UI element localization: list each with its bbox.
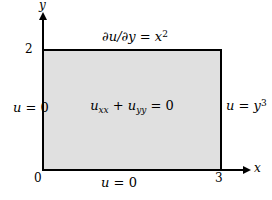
x-axis-label: x [254,162,261,175]
bottom-bc-rhs: = 0 [109,175,136,190]
boundary-condition-bottom: u = 0 [101,175,137,190]
interior-pde-equation: uxx + uyy = 0 [90,98,174,113]
pde-term2-subscript: yy [136,105,146,115]
origin-tick-0: 0 [34,172,42,185]
boundary-condition-top: ∂u/∂y = x2 [102,29,168,44]
boundary-condition-right: u = y3 [226,98,267,113]
right-bc-body: u = y [226,98,261,113]
top-bc-body: ∂u/∂y = x [102,29,162,44]
y-axis-label: y [39,0,46,12]
pde-operator: + [109,98,128,113]
right-bc-exponent: 3 [261,98,267,108]
pde-boundary-value-diagram: y x 2 0 3 ∂u/∂y = x2 uxx + uyy = 0 u = 0… [0,0,272,200]
y-axis-line [42,19,44,50]
pde-rhs: = 0 [146,98,173,113]
x-axis-tick-3: 3 [215,172,223,185]
y-axis-arrowhead-icon [39,12,47,20]
pde-term1-subscript: xx [99,105,109,115]
left-bc-rhs: = 0 [21,100,48,115]
top-bc-exponent: 2 [162,29,168,39]
x-axis-arrowhead-icon [243,166,251,174]
pde-term2-base: u [128,98,136,113]
x-axis-line [222,169,244,171]
y-axis-tick-2: 2 [25,43,33,56]
boundary-condition-left: u = 0 [13,100,49,115]
